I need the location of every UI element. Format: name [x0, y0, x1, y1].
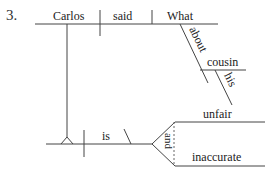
word-conjunction: and [163, 133, 175, 149]
word-complement-1: unfair [203, 107, 232, 121]
word-modifier: his [221, 70, 240, 89]
complement-slash [124, 129, 131, 144]
word-verb: said [113, 9, 132, 23]
sentence-diagram: 3. Carlos said What about cousin his is … [0, 0, 280, 175]
word-linking-verb: is [102, 129, 110, 143]
item-number: 3. [6, 7, 17, 23]
word-subject: Carlos [53, 9, 85, 23]
word-complement-2: inaccurate [192, 150, 241, 164]
word-object-of-preposition: cousin [207, 55, 238, 69]
word-preposition: about [186, 24, 211, 55]
clause-pedestal [61, 137, 73, 144]
word-object: What [167, 9, 194, 23]
